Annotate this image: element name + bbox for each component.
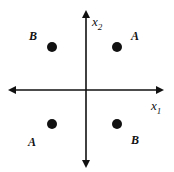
point-top-right: [112, 42, 122, 52]
label-top-left: B: [28, 29, 37, 43]
point-top-left: [47, 42, 57, 52]
label-bottom-left: A: [27, 135, 36, 149]
label-top-right: A: [130, 29, 139, 43]
xor-diagram: x2 x1 B A A B: [0, 0, 174, 172]
x1-axis-label: x1: [150, 98, 161, 116]
x2-axis-label: x2: [91, 14, 103, 32]
point-bottom-left: [47, 119, 57, 129]
label-bottom-right: B: [130, 133, 139, 147]
point-bottom-right: [112, 119, 122, 129]
